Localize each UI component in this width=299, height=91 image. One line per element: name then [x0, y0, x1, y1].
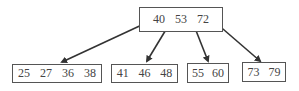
leaf-node-1: 25 27 36 38	[12, 64, 102, 83]
leaf-key: 25	[18, 66, 30, 81]
leaf-node-2: 41 46 48	[111, 64, 178, 83]
leaf-key: 60	[212, 66, 224, 81]
leaf-key: 79	[269, 65, 281, 80]
leaf-node-3: 55 60	[187, 63, 229, 83]
root-key: 53	[175, 12, 187, 27]
leaf-key: 41	[117, 66, 129, 81]
root-node: 40 53 72	[139, 7, 223, 32]
root-key: 40	[153, 12, 165, 27]
leaf-key: 48	[160, 66, 172, 81]
pointer-edge-1	[62, 21, 148, 62]
root-key: 72	[197, 12, 209, 27]
leaf-key: 55	[192, 66, 204, 81]
leaf-key: 38	[84, 66, 96, 81]
leaf-key: 46	[138, 66, 150, 81]
leaf-node-4: 73 79	[242, 62, 286, 82]
leaf-key: 36	[62, 66, 74, 81]
leaf-key: 73	[248, 65, 260, 80]
leaf-key: 27	[40, 66, 52, 81]
